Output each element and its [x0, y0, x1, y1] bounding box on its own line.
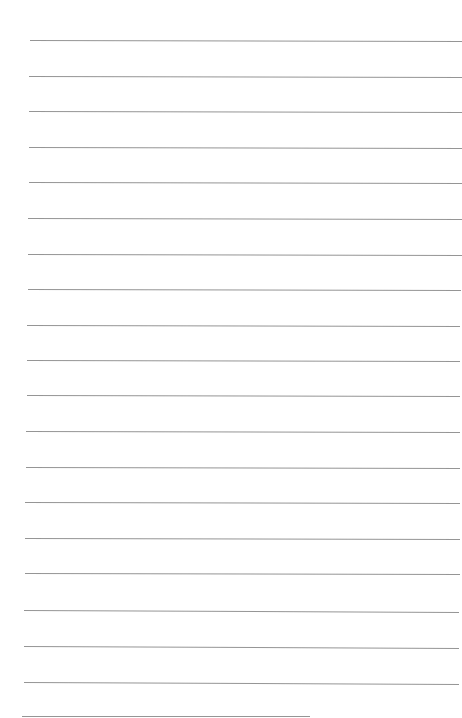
ruled-line: [26, 467, 460, 469]
ruled-line: [24, 682, 459, 685]
ruled-line: [24, 610, 459, 613]
lined-paper-page: [0, 0, 462, 718]
ruled-line: [22, 716, 310, 717]
ruled-line: [29, 76, 462, 78]
ruled-line: [24, 646, 459, 649]
ruled-line: [28, 218, 462, 220]
ruled-line: [27, 325, 460, 327]
ruled-line: [29, 111, 462, 113]
ruled-line: [29, 147, 462, 149]
ruled-line: [29, 182, 462, 184]
ruled-line: [30, 40, 462, 42]
ruled-line: [28, 254, 462, 256]
ruled-line: [25, 573, 460, 575]
ruled-line: [27, 360, 460, 362]
ruled-line: [25, 502, 460, 504]
ruled-line: [27, 395, 460, 397]
ruled-line: [28, 289, 461, 291]
ruled-line: [26, 431, 460, 433]
ruled-line: [25, 538, 460, 540]
